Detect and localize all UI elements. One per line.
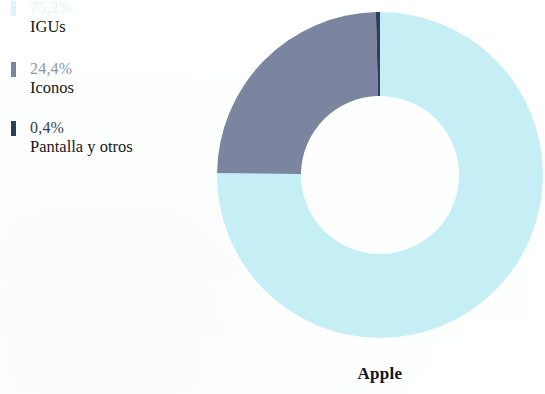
legend-label-iconos: Iconos bbox=[30, 78, 198, 98]
legend-swatch-igus bbox=[11, 1, 16, 16]
legend-percent-pantalla-y-otros: 0,4% bbox=[30, 118, 198, 137]
legend-percent-iconos: 24,4% bbox=[30, 59, 198, 78]
legend-label-pantalla-y-otros: Pantalla y otros bbox=[30, 137, 198, 157]
donut-slices bbox=[217, 12, 543, 338]
donut-chart bbox=[215, 10, 545, 340]
legend-percent-igus: 75,2% bbox=[30, 0, 198, 17]
legend-label-igus: IGUs bbox=[30, 17, 198, 37]
donut-slice-iconos[interactable] bbox=[217, 12, 378, 174]
legend-item-pantalla-y-otros[interactable]: 0,4% Pantalla y otros bbox=[8, 118, 198, 157]
legend-item-igus[interactable]: 75,2% IGUs bbox=[8, 0, 198, 37]
legend-swatch-pantalla-y-otros bbox=[11, 121, 16, 136]
legend-item-iconos[interactable]: 24,4% Iconos bbox=[8, 59, 198, 98]
chart-legend: 75,2% IGUs 24,4% Iconos 0,4% Pantalla y … bbox=[8, 2, 198, 177]
legend-swatch-iconos bbox=[11, 62, 16, 77]
chart-caption: Apple bbox=[215, 364, 545, 384]
donut-chart-svg bbox=[215, 10, 545, 340]
